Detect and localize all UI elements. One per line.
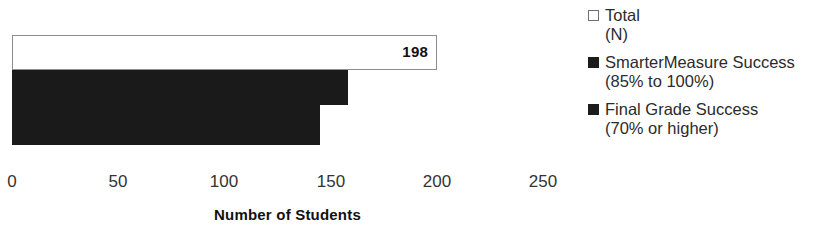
x-tick-250: 250 (529, 172, 557, 192)
x-tick-100: 100 (210, 172, 238, 192)
bar-final-grade-success (12, 105, 320, 145)
legend-sublabel-final-grade-success: (70% or higher) (605, 119, 830, 138)
legend-item-smartermeasure-success[interactable]: SmarterMeasure Success (85% to 100%) (588, 53, 830, 91)
x-tick-150: 150 (317, 172, 345, 192)
plot-area: 198 0 50 100 150 200 250 Number of Stude… (0, 0, 575, 240)
bar-chart: 198 0 50 100 150 200 250 Number of Stude… (0, 0, 830, 240)
legend-sublabel-total: (N) (605, 25, 830, 44)
bar-smartermeasure-success (12, 70, 348, 105)
bars-layer: 198 (0, 0, 575, 240)
bar-total (12, 35, 437, 70)
chart-legend: Total (N) SmarterMeasure Success (85% to… (588, 6, 830, 147)
legend-item-total[interactable]: Total (N) (588, 6, 830, 44)
x-tick-200: 200 (423, 172, 451, 192)
legend-swatch-filled-square-icon (588, 57, 599, 68)
x-axis-tick-labels: 0 50 100 150 200 250 (0, 172, 575, 198)
bar-total-value-label: 198 (388, 43, 428, 60)
legend-item-final-grade-success[interactable]: Final Grade Success (70% or higher) (588, 100, 830, 138)
x-axis-title: Number of Students (0, 206, 575, 223)
legend-label-smartermeasure-success: SmarterMeasure Success (605, 53, 795, 72)
legend-swatch-open-square-icon (588, 10, 599, 21)
x-tick-50: 50 (109, 172, 128, 192)
legend-swatch-filled-square-icon (588, 104, 599, 115)
legend-sublabel-smartermeasure-success: (85% to 100%) (605, 72, 830, 91)
legend-label-final-grade-success: Final Grade Success (605, 100, 758, 119)
legend-label-total: Total (605, 6, 640, 25)
x-tick-0: 0 (7, 172, 16, 192)
